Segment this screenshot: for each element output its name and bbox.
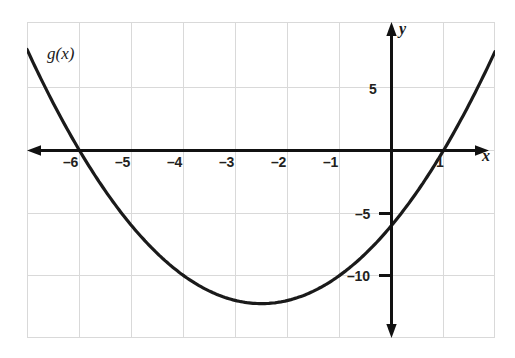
x-tick-label--1: –1 xyxy=(323,154,338,170)
x-tick-label-1: 1 xyxy=(436,154,444,170)
coordinate-plane xyxy=(0,0,515,358)
curve-label-gx: g(x) xyxy=(47,44,74,64)
x-tick-label--2: –2 xyxy=(271,154,286,170)
x-tick-label--6: –6 xyxy=(63,154,78,170)
x-tick-label--5: –5 xyxy=(115,154,130,170)
x-tick-label--3: –3 xyxy=(219,154,234,170)
y-tick-label--5: –5 xyxy=(355,206,370,222)
x-tick-label--4: –4 xyxy=(167,154,182,170)
x-axis-label: x xyxy=(482,147,490,165)
y-tick-label--10: –10 xyxy=(347,268,370,284)
graph-figure: –6 –5 –4 –3 –2 –1 1 5 –5 –10 y x g(x) xyxy=(0,0,515,358)
y-axis-label: y xyxy=(399,20,406,38)
y-tick-label-5: 5 xyxy=(369,81,377,97)
